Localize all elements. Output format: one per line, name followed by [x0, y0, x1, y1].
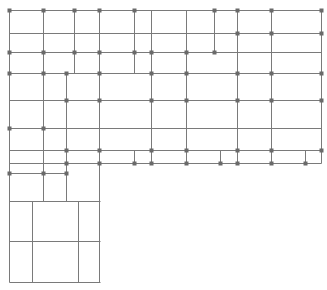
node-marker-icon — [185, 51, 189, 55]
node-marker-icon — [270, 162, 274, 166]
node-marker-icon — [185, 162, 189, 166]
node-marker-icon — [98, 162, 102, 166]
node-marker-icon — [320, 9, 324, 13]
node-marker-icon — [320, 72, 324, 76]
node-marker-icon — [236, 32, 240, 36]
node-marker-icon — [185, 72, 189, 76]
node-marker-icon — [320, 149, 324, 153]
node-marker-icon — [65, 162, 69, 166]
node-marker-icon — [42, 72, 46, 76]
node-marker-icon — [150, 149, 154, 153]
node-marker-icon — [42, 172, 46, 176]
node-marker-icon — [133, 51, 137, 55]
node-marker-icon — [236, 99, 240, 103]
node-marker-icon — [98, 99, 102, 103]
node-marker-icon — [133, 9, 137, 13]
node-marker-icon — [65, 172, 69, 176]
node-marker-icon — [65, 99, 69, 103]
node-marker-icon — [133, 162, 137, 166]
node-marker-icon — [150, 72, 154, 76]
node-marker-icon — [65, 72, 69, 76]
node-marker-icon — [8, 72, 12, 76]
node-marker-icon — [8, 9, 12, 13]
node-marker-icon — [150, 162, 154, 166]
node-marker-icon — [236, 149, 240, 153]
node-marker-icon — [270, 99, 274, 103]
node-marker-icon — [304, 162, 308, 166]
node-marker-icon — [270, 9, 274, 13]
node-marker-icon — [42, 9, 46, 13]
node-marker-icon — [270, 149, 274, 153]
node-marker-icon — [65, 149, 69, 153]
node-marker-icon — [98, 72, 102, 76]
node-marker-icon — [8, 172, 12, 176]
node-marker-icon — [320, 32, 324, 36]
node-marker-icon — [98, 51, 102, 55]
node-marker-icon — [213, 9, 217, 13]
node-marker-icon — [219, 162, 223, 166]
node-marker-icon — [270, 72, 274, 76]
node-marker-icon — [150, 51, 154, 55]
node-marker-icon — [8, 127, 12, 131]
node-marker-icon — [8, 51, 12, 55]
node-marker-icon — [236, 72, 240, 76]
node-marker-icon — [150, 99, 154, 103]
node-marker-icon — [236, 162, 240, 166]
node-marker-icon — [42, 127, 46, 131]
node-marker-icon — [270, 32, 274, 36]
node-marker-icon — [185, 149, 189, 153]
node-marker-icon — [42, 51, 46, 55]
node-marker-icon — [73, 51, 77, 55]
node-marker-icon — [185, 99, 189, 103]
grid-lines — [10, 11, 322, 283]
node-marker-icon — [213, 51, 217, 55]
node-marker-icon — [320, 99, 324, 103]
node-marker-icon — [236, 9, 240, 13]
node-marker-icon — [98, 149, 102, 153]
grid-diagram — [0, 0, 327, 290]
node-marker-icon — [98, 9, 102, 13]
diagram-svg — [0, 0, 327, 290]
node-marker-icon — [73, 9, 77, 13]
